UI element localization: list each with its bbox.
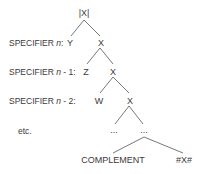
head-node-x-1: X (98, 38, 104, 48)
tree-branches (0, 0, 199, 174)
etc-label: etc. (18, 126, 32, 136)
ellipsis-right-node: ... (140, 125, 148, 135)
x-bar-tree-diagram: |X| SPECIFIER n: Y X SPECIFIER n - 1: Z … (0, 0, 199, 174)
specifier-node-z: Z (83, 67, 89, 77)
specifier-node-w: W (95, 96, 104, 106)
root-node: |X| (79, 8, 90, 18)
terminal-node: #X# (176, 155, 192, 165)
specifier-n-1-label: SPECIFIER n - 1: (9, 67, 76, 77)
head-node-x-3: X (127, 96, 133, 106)
specifier-node-y: Y (67, 38, 73, 48)
head-node-x-2: X (110, 67, 116, 77)
complement-node: COMPLEMENT (81, 155, 145, 165)
ellipsis-left-node: ... (110, 125, 118, 135)
specifier-n-2-label: SPECIFIER n - 2: (9, 96, 76, 106)
specifier-n-label: SPECIFIER n: (9, 38, 63, 48)
